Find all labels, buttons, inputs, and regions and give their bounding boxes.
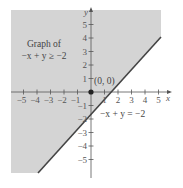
x-tick-label: 3 — [129, 95, 134, 105]
x-tick-label: 5 — [156, 95, 161, 105]
x-tick-label: 4 — [143, 95, 148, 105]
graph-title-line1: Graph of — [27, 39, 62, 49]
origin-label: (0, 0) — [94, 76, 115, 87]
x-tick-label: −3 — [44, 95, 54, 105]
y-tick-label: 4 — [83, 33, 88, 43]
x-tick-label: 2 — [116, 95, 121, 105]
x-tick-label: −5 — [17, 95, 27, 105]
y-axis-label: y — [83, 7, 88, 17]
y-tick-label: −1 — [77, 101, 87, 111]
y-tick-label: 5 — [83, 20, 88, 30]
y-tick-label: −5 — [77, 155, 87, 165]
y-tick-label: 1 — [83, 74, 88, 84]
x-tick-label: 1 — [102, 95, 107, 105]
x-axis-label: x — [165, 93, 170, 103]
graph-title-inequality: −x + y ≥ −2 — [21, 51, 66, 61]
y-tick-label: −4 — [77, 141, 87, 151]
y-axis-arrow-icon — [89, 7, 93, 12]
origin-point — [88, 89, 93, 94]
x-tick-label: −2 — [57, 95, 67, 105]
y-tick-label: −3 — [77, 128, 87, 138]
y-tick-label: 2 — [83, 60, 88, 70]
inequality-graph: −5 −4 −3 −2 −1 1 2 3 4 5 5 4 3 2 1 −1 −2… — [0, 0, 183, 188]
y-tick-label: 3 — [83, 47, 88, 57]
boundary-equation-label: −x + y = −2 — [100, 109, 145, 119]
y-tick-label: −2 — [77, 114, 87, 124]
x-tick-label: −4 — [30, 95, 40, 105]
